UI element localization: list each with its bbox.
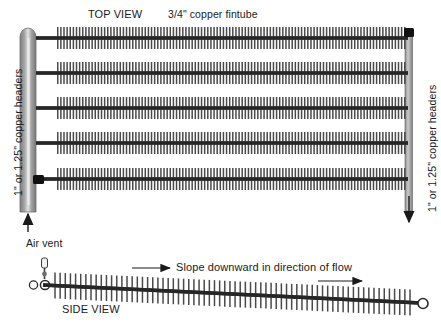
right-copper-header (405, 31, 413, 211)
diagram-artwork (0, 0, 441, 322)
top-view-title: TOP VIEW (88, 8, 142, 20)
fintube-row-group (36, 27, 408, 190)
connector-block-bottom-left (33, 175, 44, 184)
fintube (36, 177, 408, 180)
left-header-label: 1" or 1.25" copper headers (13, 69, 25, 196)
side-view-title: SIDE VIEW (62, 303, 120, 315)
fintube (36, 106, 408, 109)
air-vent-label: Air vent (26, 238, 62, 250)
air-vent-icon (42, 258, 48, 279)
fintube-label: 3/4" copper fintube (168, 9, 258, 21)
fintube (36, 71, 408, 74)
slope-label: Slope downward in direction of flow (176, 261, 352, 273)
fintube (36, 141, 408, 144)
connector-block-top-right (404, 28, 414, 37)
heat-exchanger-diagram: TOP VIEW 3/4" copper fintube 1" or 1.25"… (0, 0, 441, 322)
side-view-inlet-circle-outer (29, 281, 37, 289)
fintube (36, 36, 408, 39)
right-header-label: 1" or 1.25" copper headers (427, 85, 439, 212)
side-view-end-fitting (418, 299, 428, 309)
